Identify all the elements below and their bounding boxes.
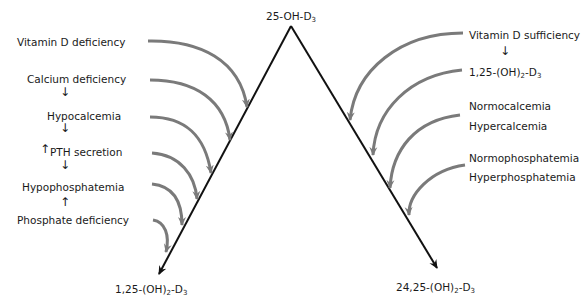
- label-calcium-deficiency: Calcium deficiency: [27, 73, 126, 85]
- curve-vitd-sufficiency: [350, 33, 463, 120]
- label-vitamin-d-sufficiency: Vitamin D sufficiency: [469, 29, 580, 41]
- arrow-up-icon: ↑: [40, 143, 50, 155]
- arrow-down-icon: ↓: [60, 86, 70, 98]
- left-product-label: 1,25-(OH)2-D3: [115, 283, 187, 299]
- label-normophosphatemia: Normophosphatemia: [469, 152, 579, 164]
- curve-hypophosphatemia: [152, 184, 182, 225]
- curve-calcemia: [390, 115, 460, 188]
- label-dihydroxy-d3: 1,25-(OH)2-D3: [469, 66, 541, 82]
- apex-label: 25-OH-D3: [266, 10, 316, 26]
- label-hypocalcemia: Hypocalcemia: [47, 110, 121, 122]
- arrow-down-icon: ↓: [60, 122, 70, 134]
- label-vitamin-d-deficiency: Vitamin D deficiency: [17, 36, 126, 48]
- label-hyperphosphatemia: Hyperphosphatemia: [469, 171, 576, 183]
- label-hypophosphatemia: Hypophosphatemia: [22, 181, 124, 193]
- curve-dihydroxy: [373, 70, 462, 155]
- curve-phosphatemia: [409, 165, 465, 215]
- right-pathway-line: [291, 26, 437, 268]
- label-hypercalcemia: Hypercalcemia: [469, 120, 547, 132]
- label-pth-secretion: PTH secretion: [50, 146, 122, 158]
- arrow-down-icon: ↓: [60, 159, 70, 171]
- curve-pth: [152, 153, 197, 199]
- arrow-up-icon: ↑: [60, 196, 70, 208]
- label-normocalcemia: Normocalcemia: [469, 100, 551, 112]
- right-product-label: 24,25-(OH)2-D3: [396, 281, 475, 297]
- arrow-down-icon: ↓: [500, 45, 510, 57]
- curve-vitd-deficiency: [148, 41, 247, 107]
- label-phosphate-deficiency: Phosphate deficiency: [17, 214, 129, 226]
- curve-phosphate-deficiency: [153, 220, 167, 252]
